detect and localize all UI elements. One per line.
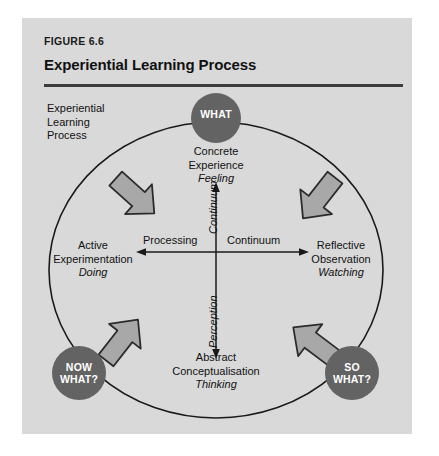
now-what-circle-label-line1: NOW [60, 362, 98, 374]
node-reflective-observation-line2: Observation [311, 253, 370, 267]
arrow-top-right [287, 165, 351, 231]
node-reflective-observation-line1: Reflective [311, 239, 370, 253]
node-active-experimentation-line1: Active [53, 239, 133, 253]
node-reflective-observation-mode: Watching [311, 266, 370, 280]
node-active-experimentation: Active Experimentation Doing [53, 239, 133, 280]
horizontal-axis-arrow-right [299, 248, 309, 256]
axis-label-perception-continuum: Continuum [207, 181, 219, 234]
axis-label-processing: Processing [143, 234, 197, 246]
arrow-top-left [102, 164, 167, 229]
now-what-circle-label-line2: WHAT? [60, 373, 98, 385]
node-concrete-experience: Concrete Experience Feeling [188, 145, 243, 186]
node-abstract-conceptualisation-mode: Thinking [172, 378, 259, 392]
horizontal-axis-arrow-left [136, 248, 146, 256]
caption-line-3: Process [47, 129, 104, 143]
so-what-circle-label[interactable]: SO WHAT? [333, 362, 371, 385]
what-circle-label[interactable]: WHAT [200, 109, 232, 121]
diagram-caption: Experiential Learning Process [47, 102, 104, 143]
axis-label-perception: Perception [207, 295, 219, 348]
node-abstract-conceptualisation-line2: Conceptualisation [172, 365, 259, 379]
experiential-learning-diagram: Experiential Learning Process Concrete E… [22, 18, 412, 434]
node-active-experimentation-mode: Doing [53, 266, 133, 280]
node-active-experimentation-line2: Experimentation [53, 253, 133, 267]
axis-label-processing-continuum: Continuum [227, 234, 280, 246]
node-concrete-experience-line2: Experience [188, 159, 243, 173]
figure-panel: FIGURE 6.6 Experiential Learning Process [22, 18, 412, 434]
node-abstract-conceptualisation-line1: Abstract [172, 351, 259, 365]
so-what-circle-label-line2: WHAT? [333, 373, 371, 385]
so-what-circle-label-line1: SO [333, 362, 371, 374]
node-concrete-experience-line1: Concrete [188, 145, 243, 159]
caption-line-1: Experiential [47, 102, 104, 116]
node-reflective-observation: Reflective Observation Watching [311, 239, 370, 280]
now-what-circle-label[interactable]: NOW WHAT? [60, 362, 98, 385]
caption-line-2: Learning [47, 116, 104, 130]
node-abstract-conceptualisation: Abstract Conceptualisation Thinking [172, 351, 259, 392]
what-circle-label-line1: WHAT [200, 109, 232, 121]
